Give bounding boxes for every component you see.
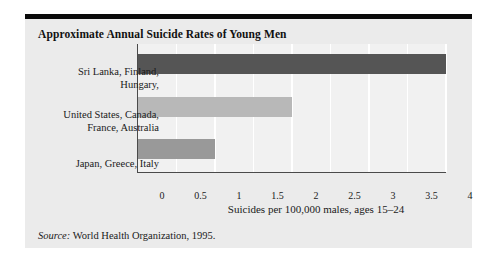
source-text: World Health Organization, 1995. <box>73 230 216 241</box>
category-label: Sri Lanka, Finland, Hungary, <box>78 65 159 91</box>
x-tick-label: 1 <box>237 190 242 201</box>
x-tick-label: 4 <box>468 190 473 201</box>
x-tick-label: 3 <box>391 190 396 201</box>
x-axis-title: Suicides per 100,000 males, ages 15–24 <box>162 203 470 215</box>
category-label: United States, Canada, France, Australia <box>63 108 159 134</box>
top-rule-divider <box>25 14 472 19</box>
x-tick-label: 2.5 <box>348 190 361 201</box>
bar <box>138 97 292 117</box>
x-tick-label: 1.5 <box>271 190 284 201</box>
x-tick-label: 0 <box>160 190 165 201</box>
chart-title: Approximate Annual Suicide Rates of Youn… <box>38 28 287 40</box>
x-tick-label: 2 <box>314 190 319 201</box>
x-tick-label: 3.5 <box>425 190 438 201</box>
source-note: Source: World Health Organization, 1995. <box>38 230 215 241</box>
bar <box>138 54 446 74</box>
x-tick-label: 0.5 <box>194 190 207 201</box>
category-label: Japan, Greece, Italy <box>76 157 159 170</box>
source-label: Source: <box>38 230 70 241</box>
figure-container: Approximate Annual Suicide Rates of Youn… <box>0 0 499 263</box>
plot-area <box>137 44 446 173</box>
